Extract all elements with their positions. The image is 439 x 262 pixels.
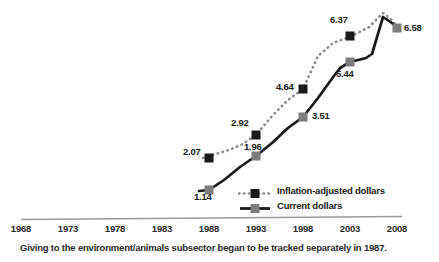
point-label-5-44: 5.44 bbox=[336, 68, 354, 79]
data-point-inflation-1993 bbox=[252, 131, 261, 140]
chart-footnote: Giving to the environment/animals subsec… bbox=[20, 242, 387, 253]
x-tick-1988: 1988 bbox=[199, 223, 219, 234]
x-tick-1998: 1998 bbox=[293, 223, 313, 234]
point-label-6-37: 6.37 bbox=[330, 14, 348, 25]
legend-label-inflation-adjusted: Inflation-adjusted dollars bbox=[277, 185, 385, 196]
data-point-current-2008 bbox=[393, 24, 402, 33]
data-point-current-1993 bbox=[252, 152, 261, 161]
series-line-current-dollars bbox=[199, 17, 397, 191]
legend-swatch-dotted-icon bbox=[238, 185, 272, 196]
data-point-current-1998 bbox=[299, 113, 308, 122]
x-tick-1968: 1968 bbox=[11, 223, 31, 234]
data-point-inflation-1998 bbox=[299, 85, 308, 94]
x-tick-1978: 1978 bbox=[105, 223, 125, 234]
point-label-6-58: 6.58 bbox=[404, 22, 422, 33]
point-label-3-51: 3.51 bbox=[312, 110, 330, 121]
data-point-inflation-2003 bbox=[346, 32, 355, 41]
x-tick-1973: 1973 bbox=[58, 223, 78, 234]
point-label-2-92: 2.92 bbox=[231, 117, 249, 128]
legend-item-inflation-adjusted: Inflation-adjusted dollars bbox=[238, 183, 428, 198]
point-label-1-14: 1.14 bbox=[194, 191, 212, 202]
data-point-inflation-1988 bbox=[205, 154, 214, 163]
chart-legend: Inflation-adjusted dollars Current dolla… bbox=[238, 183, 428, 213]
x-tick-1993: 1993 bbox=[246, 223, 266, 234]
x-tick-1983: 1983 bbox=[152, 223, 172, 234]
legend-label-current-dollars: Current dollars bbox=[277, 200, 342, 211]
point-label-1-96: 1.96 bbox=[244, 141, 262, 152]
legend-swatch-solid-icon bbox=[238, 200, 272, 211]
x-tick-2008: 2008 bbox=[387, 223, 407, 234]
point-label-4-64: 4.64 bbox=[276, 81, 294, 92]
data-point-current-2003 bbox=[346, 58, 355, 67]
point-label-2-07: 2.07 bbox=[183, 146, 201, 157]
legend-item-current-dollars: Current dollars bbox=[238, 198, 428, 213]
chart-figure: 1968 1973 1978 1983 1988 1993 1998 2003 … bbox=[0, 0, 439, 262]
x-tick-2003: 2003 bbox=[340, 223, 360, 234]
x-axis-line bbox=[21, 217, 402, 220]
